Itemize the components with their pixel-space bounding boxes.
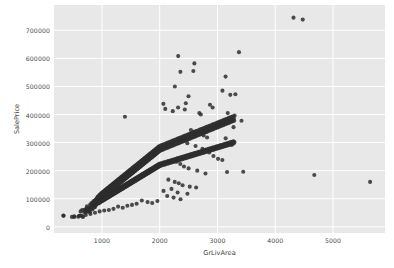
scatter-point [211,154,215,158]
scatter-points-layer [54,5,385,233]
scatter-point [107,208,111,212]
scatter-point [146,200,150,204]
scatter-point [80,214,84,218]
scatter-point [196,132,200,136]
scatter-point [192,130,196,134]
scatter-point [123,115,127,119]
scatter-point [171,109,175,113]
scatter-point [185,192,189,196]
scatter-point [183,107,187,111]
scatter-point [176,191,180,195]
scatter-point [194,185,198,189]
scatter-point [130,203,134,207]
scatter-point [185,141,189,145]
scatter-point [184,101,188,105]
scatter-point [163,107,167,111]
scatter-point [199,112,203,116]
scatter-point [195,169,199,173]
scatter-point [178,162,182,166]
scatter-point [93,211,97,215]
scatter-point [165,194,169,198]
scatter-point [220,158,224,162]
scatter-point [140,198,144,202]
y-tick-label: 200000 [0,167,50,174]
scatter-point [178,197,182,201]
scatter-point [233,92,237,96]
scatter-point [111,207,115,211]
scatter-point [226,111,230,115]
x-tick-label: 2000 [152,237,168,244]
scatter-point [205,135,209,139]
scatter-point [173,84,177,88]
y-tick-label: 300000 [0,139,50,146]
scatter-point [161,102,165,106]
scatter-point [312,173,316,177]
scatter-point [203,171,207,175]
scatter-point [192,61,196,65]
scatter-point [241,170,245,174]
scatter-point [88,212,92,216]
scatter-point [155,199,159,203]
scatter-point [98,209,102,213]
scatter-point [216,157,220,161]
scatter-point [169,187,173,191]
scatter-point [176,54,180,58]
x-tick-label: 4000 [267,237,283,244]
y-tick-label: 500000 [0,83,50,90]
x-tick-label: 3000 [209,237,225,244]
y-tick-label: 600000 [0,55,50,62]
scatter-point [368,180,372,184]
scatter-point [150,201,154,205]
scatter-point [225,170,229,174]
scatter-point [191,69,195,73]
x-tick-label: 1000 [94,237,110,244]
scatter-point [125,204,129,208]
scatter-point [181,183,185,187]
x-tick-label: 5000 [325,237,341,244]
scatter-point [187,166,191,170]
scatter-point [121,206,125,210]
scatter-point [233,114,237,118]
scatter-point [102,208,106,212]
scatter-point [202,134,206,138]
scatter-point [135,202,139,206]
scatter-point [220,89,224,93]
scatter-point [174,160,178,164]
y-tick-label: 0 [0,223,50,230]
scatter-point [161,189,165,193]
scatter-point [180,139,184,143]
scatter-point [301,18,305,22]
scatter-point [239,119,243,123]
scatter-point [232,119,236,123]
scatter-point [176,105,180,109]
scatter-point [166,178,170,182]
scatter-point [193,144,197,148]
x-axis-label: GrLivArea [54,249,385,257]
plot-area [54,5,385,233]
y-tick-label: 100000 [0,195,50,202]
scatter-point [237,50,241,54]
scatter-point [182,164,186,168]
scatter-point [173,180,177,184]
scatter-point [231,125,235,129]
scatter-point [84,213,88,217]
scatter-point [224,75,228,79]
scatter-point [224,136,228,140]
scatter-plot-figure: 0100000200000300000400000500000600000700… [0,0,394,268]
scatter-point [291,16,295,20]
scatter-point [207,150,211,154]
y-tick-label: 700000 [0,27,50,34]
scatter-point [211,105,215,109]
scatter-point [76,215,80,219]
y-tick-label: 400000 [0,111,50,118]
y-axis-label: SalePrice [13,104,21,134]
scatter-point [200,147,204,151]
scatter-point [177,181,181,185]
scatter-point [230,143,234,147]
scatter-point [228,93,232,97]
scatter-point [116,205,120,209]
scatter-point [186,94,190,98]
scatter-point [188,185,192,189]
scatter-point [172,196,176,200]
scatter-point [61,214,65,218]
